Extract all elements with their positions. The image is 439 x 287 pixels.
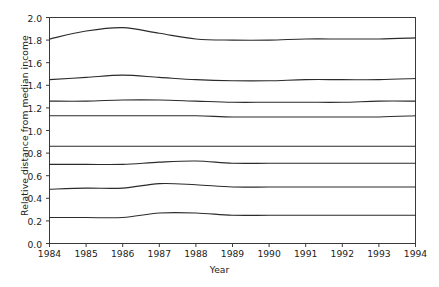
curve-p90 bbox=[50, 75, 416, 81]
curve-p95 bbox=[50, 28, 416, 41]
curve-p05 bbox=[50, 213, 416, 218]
curve-p70 bbox=[50, 116, 416, 117]
plot-frame bbox=[50, 18, 416, 244]
curve-p20 bbox=[50, 161, 416, 165]
chart-container: Relative distance from median income Yea… bbox=[0, 0, 439, 287]
plot-area bbox=[0, 0, 439, 287]
data-curves bbox=[50, 28, 416, 218]
curve-p80 bbox=[50, 100, 416, 102]
curve-p10 bbox=[50, 183, 416, 189]
y-tick-marks bbox=[46, 18, 50, 244]
x-tick-marks bbox=[50, 244, 416, 248]
